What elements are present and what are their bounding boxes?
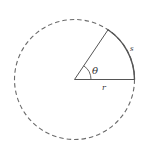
arc-label: s (130, 45, 134, 53)
theta-label: θ (92, 65, 98, 76)
sector-diagram: θ r s (0, 0, 143, 151)
arc-s (108, 30, 134, 80)
angle-arc (84, 66, 91, 80)
radius-label: r (102, 83, 107, 92)
